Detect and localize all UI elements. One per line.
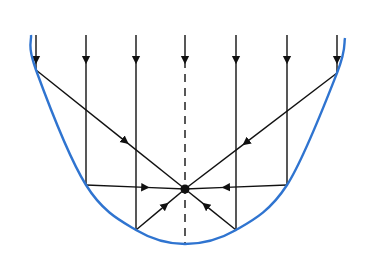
reflected-ray: [125, 141, 185, 189]
reflected-ray: [145, 187, 185, 189]
incident-rays: [36, 35, 337, 230]
reflected-ray-arrow: [205, 205, 236, 230]
parabolic-mirror-curve: [30, 35, 345, 244]
parabolic-mirror-diagram: [0, 0, 365, 253]
reflected-ray-arrow: [226, 185, 287, 187]
reflected-rays: [36, 70, 337, 230]
reflected-ray: [185, 187, 226, 189]
focus-point: [181, 185, 190, 194]
reflected-ray-arrow: [136, 205, 165, 230]
